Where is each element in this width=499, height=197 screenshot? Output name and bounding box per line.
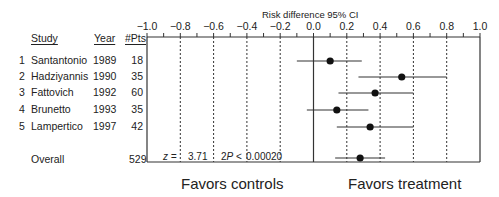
point-estimate	[372, 89, 379, 96]
point-estimate	[327, 57, 334, 64]
overall-point-estimate	[357, 154, 364, 161]
point-estimate	[333, 106, 340, 113]
forest-plot	[0, 0, 499, 197]
point-estimate	[367, 123, 374, 130]
point-estimate	[398, 73, 405, 80]
